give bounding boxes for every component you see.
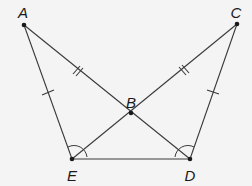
point-C: [235, 22, 240, 27]
label-D: D: [185, 168, 196, 183]
segment-CD: [190, 24, 237, 159]
label-A: A: [18, 5, 28, 20]
geometry-diagram: A B C D E: [0, 0, 252, 186]
label-E: E: [67, 168, 77, 183]
point-A: [22, 23, 27, 28]
point-D: [188, 157, 193, 162]
label-B: B: [126, 95, 136, 110]
point-E: [70, 157, 75, 162]
label-C: C: [231, 5, 242, 20]
point-B: [129, 111, 134, 116]
